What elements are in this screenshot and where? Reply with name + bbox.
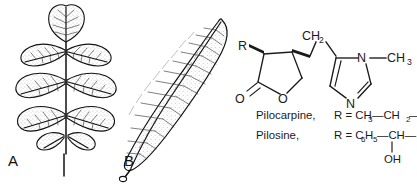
figure-canvas: A B O O R bbox=[0, 0, 417, 184]
n-methyl-subscript: 3 bbox=[407, 57, 412, 67]
legend-row-pilosine: Pilosine, R = C 6 H 5 —CH— OH bbox=[256, 129, 417, 165]
leaflet-right-lower bbox=[67, 107, 115, 132]
methylene-label: CH bbox=[302, 29, 320, 43]
leaflet-basal-right bbox=[68, 133, 95, 150]
panel-label-a: A bbox=[8, 152, 18, 169]
legend-r-pilosine-prefix: R = C bbox=[334, 129, 363, 141]
ring-oxygen-label: O bbox=[278, 92, 288, 106]
leaflet-left-lower bbox=[17, 107, 65, 132]
lanceolate-leaf-blade bbox=[124, 19, 227, 171]
legend-compound-pilocarpine: Pilocarpine, bbox=[256, 109, 316, 121]
n-methyl-label: CH bbox=[387, 51, 405, 65]
legend-r-pilocarpine-mid: —CH bbox=[372, 109, 400, 121]
carbonyl-oxygen-label: O bbox=[235, 92, 245, 106]
petiole-base bbox=[119, 176, 126, 181]
r-group-label: R bbox=[238, 39, 247, 53]
methylene-subscript: 2 bbox=[319, 35, 324, 45]
legend-r-pilocarpine-prefix: R = CH bbox=[334, 109, 372, 121]
panel-label-b: B bbox=[124, 152, 134, 169]
simple-leaf-illustration bbox=[118, 2, 240, 184]
legend-row-pilocarpine: Pilocarpine, R = CH 3 —CH 2 — bbox=[256, 109, 417, 124]
leaflet-left-upper bbox=[21, 44, 65, 66]
leaflet-left-mid bbox=[16, 73, 65, 97]
legend-hydroxyl-pilosine: OH bbox=[384, 153, 401, 165]
leaflet-terminal bbox=[49, 5, 85, 42]
imidazole-ring: N N bbox=[330, 51, 371, 111]
stereo-wedge-r bbox=[249, 44, 264, 54]
legend-compound-pilosine: Pilosine, bbox=[256, 129, 299, 141]
lactone-ring bbox=[258, 52, 302, 94]
leaflet-basal-left bbox=[37, 133, 64, 150]
leaflet-right-upper bbox=[67, 44, 111, 66]
legend-r-pilosine-mid: —CH— bbox=[377, 129, 417, 141]
legend-r-pilosine-prefix2: H bbox=[365, 129, 373, 141]
compound-leaf-illustration bbox=[4, 2, 132, 184]
imidazole-nitrogen-substituted-label: N bbox=[357, 51, 366, 65]
stereo-wedge-ch2 bbox=[292, 49, 310, 58]
legend-r-pilocarpine-suffix: — bbox=[409, 109, 417, 121]
chemical-structure-panel: O O R CH 2 bbox=[240, 20, 417, 184]
methylene-bridge: CH 2 bbox=[302, 29, 336, 56]
leaflet-right-mid bbox=[67, 73, 116, 97]
n-methyl-group: CH 3 bbox=[370, 51, 412, 67]
